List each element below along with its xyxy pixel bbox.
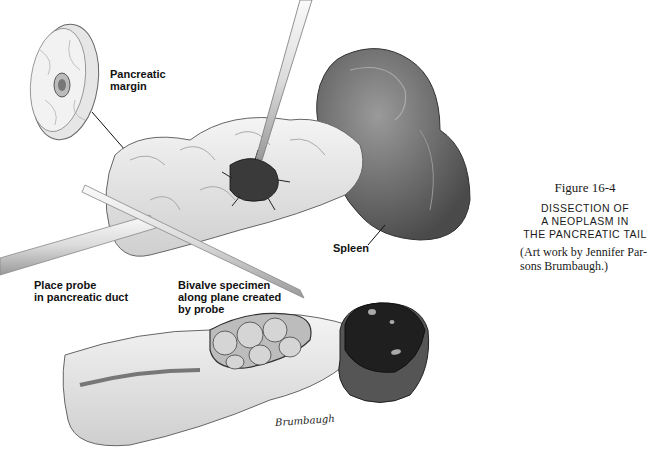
title-line: A NEOPLASM IN — [520, 215, 650, 228]
label-line: Pancreatic — [110, 68, 166, 80]
label-pancreatic-margin: Pancreatic margin — [110, 68, 166, 92]
figure-number: Figure 16-4 — [520, 180, 650, 196]
title-line: DISSECTION OF — [520, 202, 650, 215]
label-line: in pancreatic duct — [34, 291, 128, 303]
label-line: Place probe — [34, 279, 128, 291]
title-line: THE PANCREATIC TAIL — [520, 228, 650, 241]
label-line: margin — [110, 80, 166, 92]
label-place-probe: Place probe in pancreatic duct — [34, 279, 128, 303]
credit-line: (Art work by Jennifer Par- — [520, 245, 650, 259]
label-bivalve: Bivalve specimen along plane created by … — [178, 279, 281, 315]
label-line: by probe — [178, 303, 281, 315]
pancreas-specimen — [106, 118, 363, 257]
figure-credit: (Art work by Jennifer Par- sons Brumbaug… — [520, 245, 650, 273]
margin-leader-line — [92, 112, 125, 150]
label-line: along plane created — [178, 291, 281, 303]
spleen-cross-section — [339, 303, 429, 403]
bivalved-specimen — [63, 303, 429, 446]
figure-title: DISSECTION OF A NEOPLASM IN THE PANCREAT… — [520, 202, 650, 241]
pancreatic-margin-disc — [24, 20, 106, 144]
credit-line: sons Brumbaugh.) — [520, 259, 650, 273]
label-spleen: Spleen — [333, 242, 369, 254]
label-line: Bivalve specimen — [178, 279, 281, 291]
figure-caption: Figure 16-4 DISSECTION OF A NEOPLASM IN … — [520, 180, 650, 273]
